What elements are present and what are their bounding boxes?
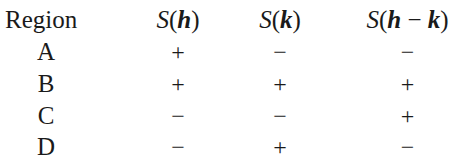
paren-close: ) — [191, 6, 199, 33]
func-s: S — [156, 6, 169, 33]
paren-open: ( — [379, 6, 387, 33]
func-s: S — [259, 6, 272, 33]
table-header-row: Region S(h) S(k) S(h − k) — [0, 4, 475, 36]
paren-close: ) — [293, 6, 301, 33]
sign-table: Region S(h) S(k) S(h − k) A + − − B + + … — [0, 0, 475, 167]
sign-cell-s-k: + — [230, 68, 330, 100]
sign-cell-s-h: + — [128, 36, 228, 68]
minus-operator: − — [401, 6, 428, 33]
sign-cell-s-h: + — [128, 68, 228, 100]
header-s-h-minus-k: S(h − k) — [340, 4, 475, 36]
sign-cell-s-h-minus-k: + — [340, 100, 475, 132]
paren-open: ( — [272, 6, 280, 33]
region-cell: D — [0, 131, 92, 163]
vector-h: h — [387, 6, 401, 33]
header-s-h: S(h) — [128, 4, 228, 36]
sign-cell-s-h-minus-k: + — [340, 68, 475, 100]
vector-k: k — [428, 6, 441, 33]
table-row: A + − − — [0, 36, 475, 68]
region-cell: B — [0, 68, 92, 100]
table-row: D − + − — [0, 131, 475, 163]
table-row: C − − + — [0, 100, 475, 132]
sign-cell-s-h-minus-k: − — [340, 36, 475, 68]
region-cell: A — [0, 36, 92, 68]
paren-close: ) — [440, 6, 448, 33]
func-s: S — [366, 6, 379, 33]
header-s-k: S(k) — [230, 4, 330, 36]
sign-cell-s-h-minus-k: − — [340, 131, 475, 163]
table-row: B + + + — [0, 68, 475, 100]
sign-cell-s-h: − — [128, 100, 228, 132]
sign-cell-s-k: − — [230, 100, 330, 132]
vector-k: k — [280, 6, 293, 33]
sign-cell-s-k: − — [230, 36, 330, 68]
sign-cell-s-k: + — [230, 131, 330, 163]
region-cell: C — [0, 100, 92, 132]
vector-h: h — [177, 6, 191, 33]
sign-cell-s-h: − — [128, 131, 228, 163]
header-region: Region — [0, 4, 105, 36]
